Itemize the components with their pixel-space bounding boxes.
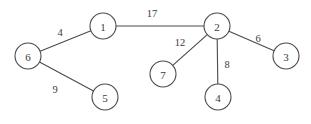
graph-node-1[interactable]: 1	[90, 13, 116, 39]
node-label-7: 7	[160, 69, 166, 81]
graph-edge-6-5	[39, 62, 93, 91]
graph-node-4[interactable]: 4	[205, 84, 231, 110]
node-label-6: 6	[25, 51, 31, 63]
graph-node-7[interactable]: 7	[150, 61, 176, 87]
edge-weight-label-2-3: 6	[255, 33, 260, 44]
graph-node-2[interactable]: 2	[204, 13, 230, 39]
node-label-5: 5	[102, 92, 108, 104]
edge-weight-label-2-7: 12	[175, 37, 186, 48]
edge-weight-label-6-5: 9	[52, 84, 57, 95]
graph-svg: 1234567 17491286	[0, 0, 311, 124]
graph-node-3[interactable]: 3	[273, 43, 299, 69]
graph-edge-2-3	[229, 31, 274, 51]
edge-weight-label-6-1: 4	[57, 27, 63, 38]
node-label-1: 1	[100, 21, 106, 33]
edge-weight-label-2-4: 8	[224, 59, 229, 70]
node-label-2: 2	[214, 21, 220, 33]
graph-diagram: 1234567 17491286	[0, 0, 311, 124]
node-label-4: 4	[215, 92, 221, 104]
graph-edge-2-4	[217, 39, 218, 84]
edge-weight-label-1-2: 17	[147, 8, 158, 19]
node-label-3: 3	[283, 51, 289, 63]
graph-edge-6-1	[40, 31, 91, 51]
graph-node-5[interactable]: 5	[92, 84, 118, 110]
graph-node-6[interactable]: 6	[15, 43, 41, 69]
